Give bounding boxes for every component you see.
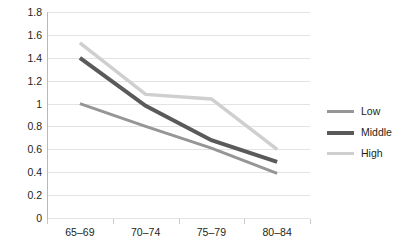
- x-axis-tickmark: [179, 219, 180, 224]
- legend-item-middle[interactable]: Middle: [327, 122, 407, 143]
- legend-label: High: [361, 148, 383, 159]
- line-chart: 00.20.40.60.811.21.41.61.8 65–6970–7475–…: [0, 0, 409, 252]
- legend-swatch-icon: [327, 110, 354, 113]
- x-axis-tick-label: 65–69: [65, 226, 94, 238]
- series-line-high: [80, 43, 277, 149]
- x-axis-tickmark: [244, 219, 245, 224]
- legend-item-low[interactable]: Low: [327, 101, 407, 122]
- legend-swatch-icon: [327, 152, 354, 155]
- legend-item-high[interactable]: High: [327, 143, 407, 164]
- x-axis-ticks: 65–6970–7475–7980–84: [47, 226, 310, 242]
- legend-label: Middle: [361, 127, 392, 138]
- series-line-middle: [80, 58, 277, 162]
- legend-label: Low: [361, 106, 380, 117]
- legend: LowMiddleHigh: [327, 101, 407, 164]
- x-axis-tickmark: [310, 219, 311, 224]
- x-axis-tick-label: 80–84: [263, 226, 292, 238]
- x-axis-tick-label: 75–79: [197, 226, 226, 238]
- x-axis-tick-label: 70–74: [131, 226, 160, 238]
- x-axis-tickmark: [47, 219, 48, 224]
- series-line-low: [80, 104, 277, 174]
- x-axis-tickmark: [113, 219, 114, 224]
- legend-swatch-icon: [327, 131, 354, 135]
